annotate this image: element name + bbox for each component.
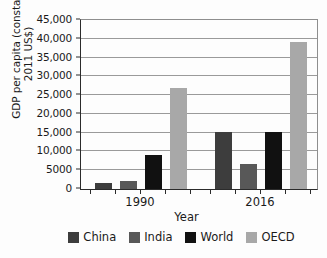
y-axis-tick-label: 20,000 [36,108,72,119]
y-axis-title-line-1: GDP per capita (constant [10,0,23,119]
legend-item-china: China [68,231,116,243]
y-axis-tick-label: 5000 [46,164,72,175]
bar-india-1990 [120,181,137,189]
legend-label: India [144,231,172,243]
legend-label: World [200,231,233,243]
gridline [81,38,317,39]
x-axis-tick-marks [80,189,317,195]
bar-chart-figure: GDP per capita (constant 2011 US$) 05000… [0,0,327,258]
legend-swatch-icon [185,232,196,243]
x-axis-tick-mark [235,189,236,194]
x-axis-tick-mark [260,189,261,194]
legend-swatch-icon [68,232,79,243]
x-axis-group-label-1990: 1990 [125,196,154,209]
bar-oecd-1990 [170,88,187,189]
x-axis-tick-mark [190,189,191,194]
bar-oecd-2016 [290,42,307,189]
bar-world-2016 [265,132,282,189]
y-axis-tick-label: 15,000 [36,126,72,137]
y-axis-tick-label: 25,000 [36,89,72,100]
gridline [81,113,317,114]
x-axis-title: Year [0,211,327,224]
legend-item-oecd: OECD [246,231,294,243]
chart-legend: ChinaIndiaWorldOECD [0,231,327,243]
legend-label: OECD [261,231,294,243]
y-axis-tick-label: 30,000 [36,70,72,81]
x-axis-tick-mark [310,189,311,194]
legend-item-india: India [129,231,172,243]
y-axis-tick-label: 40,000 [36,33,72,44]
x-axis-group-label-2016: 2016 [245,196,274,209]
plot-area [80,19,318,190]
bar-china-2016 [215,132,232,189]
y-axis-tick-labels: 0500010,00015,00020,00025,00030,00035,00… [26,12,76,194]
y-axis-tick-label: 45,000 [36,14,72,25]
x-axis-tick-mark [115,189,116,194]
y-axis-tick-label: 10,000 [36,145,72,156]
y-axis-tick-label: 0 [66,183,72,194]
x-axis-tick-mark [285,189,286,194]
x-axis-tick-mark [165,189,166,194]
gridline [81,94,317,95]
x-axis-tick-mark [90,189,91,194]
bar-world-1990 [145,155,162,189]
legend-label: China [83,231,116,243]
legend-item-world: World [185,231,233,243]
x-axis-tick-mark [210,189,211,194]
gridline [81,57,317,58]
x-axis-tick-mark [140,189,141,194]
legend-swatch-icon [129,232,140,243]
bar-india-2016 [240,164,257,189]
gridline [81,75,317,76]
legend-swatch-icon [246,232,257,243]
y-axis-tick-label: 35,000 [36,51,72,62]
